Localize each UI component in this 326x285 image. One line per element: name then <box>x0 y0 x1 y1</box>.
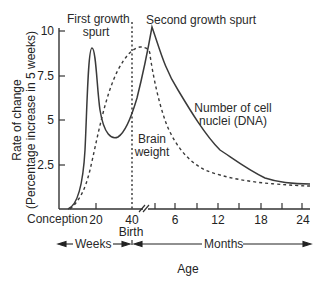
arrow-right-icon <box>303 242 311 247</box>
x-axis-label-age: Age <box>177 262 198 276</box>
series-brain-weight-line <box>70 47 310 209</box>
x-tick-24: 24 <box>296 213 309 227</box>
weeks-label: Weeks <box>75 238 111 251</box>
y-tick-5: 5 <box>26 113 54 127</box>
y-tick-7-5: 7.5 <box>26 69 54 83</box>
arrow-left-icon <box>58 242 66 247</box>
months-label: Months <box>204 238 243 251</box>
x-tick-6: 6 <box>172 213 179 227</box>
arrow-right-icon <box>122 242 130 247</box>
legend-label-dna: Number of cell nuclei (DNA) <box>192 102 274 128</box>
legend-label-brain-weight: Brain weight <box>132 133 172 159</box>
x-tick-12: 12 <box>211 213 224 227</box>
arrow-left-icon <box>134 242 142 247</box>
annotation-first-growth-spurt: First growth spurt <box>67 13 125 39</box>
y-axis-label-line1: Rate of change <box>10 31 24 209</box>
birth-label: Birth <box>119 225 144 239</box>
x-tick-conception: Conception <box>27 213 88 226</box>
x-ticks <box>96 203 302 209</box>
y-tick-10: 10 <box>26 24 54 38</box>
x-tick-18: 18 <box>254 213 267 227</box>
y-tick-2-5: 2.5 <box>26 158 54 172</box>
x-tick-20: 20 <box>89 213 102 227</box>
y-ticks <box>59 31 65 165</box>
annotation-second-growth-spurt: Second growth spurt <box>146 14 256 27</box>
growth-chart: Rate of change (Percentage increase in 5… <box>0 0 326 285</box>
